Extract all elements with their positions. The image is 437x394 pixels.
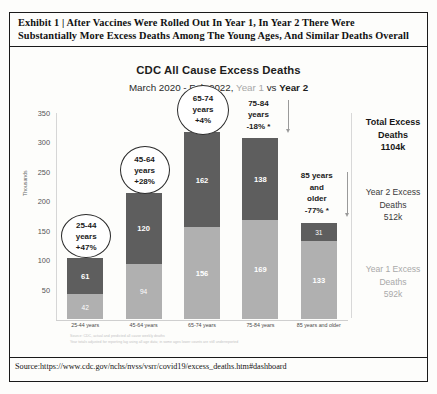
bar-segment-year2: 31 [301,223,337,241]
source-citation: Source:https://www.cdc.gov/nchs/nvss/vsr… [15,362,287,371]
legend-year2-line1: Year 2 Excess [352,186,434,199]
y-tick-label: 150 [28,226,50,235]
exhibit-page: Exhibit 1 | After Vaccines Were Rolled O… [0,0,437,394]
callout-age: 25-44 [76,220,96,231]
bar-value-year2: 162 [184,175,220,184]
y-tick-label: 200 [28,197,50,206]
callout-years: years [193,104,214,115]
x-tick-label: 65-74 years [172,322,232,328]
bar-value-year2: 31 [301,228,337,235]
footnote-1: Source: CDC, actual and predicted all ca… [70,334,360,340]
bar-segment-year1: 94 [126,264,162,319]
callout-pct: +28% [134,176,155,187]
legend-year1-excess: Year 1 Excess Deaths 592k [352,263,434,301]
legend-year2-line2: Deaths [352,199,434,212]
bar-25-44-years: 6142 [67,258,103,319]
callout-age: 75-84 [232,98,284,110]
legend-year1-value: 592k [352,288,434,301]
callout-85-years-and-older: 85 yearsandolder-77% * [291,170,343,216]
bar-value-year1: 94 [126,288,162,295]
callout-75-84-years: 75-84years-18% * [232,98,284,133]
headline-line-2: Substantially More Excess Deaths Among T… [18,30,421,43]
bar-value-year2: 61 [67,272,103,281]
source-divider [10,357,427,358]
bar-65-74-years: 162156 [184,132,220,319]
subtitle-vs: vs [264,82,279,93]
bar-value-year1: 133 [301,275,337,284]
subtitle-year2: Year 2 [279,82,308,93]
callout-pointer-line [347,172,348,214]
callout-years2: older [291,193,343,205]
callout-age: 85 years [291,170,343,182]
chart-title: CDC All Cause Excess Deaths [0,64,437,76]
callout-pct: +4% [195,115,211,126]
callout-pct: +47% [76,242,97,253]
callout-pct: -18% * [232,121,284,133]
y-tick-label: 100 [28,256,50,265]
legend-year2-value: 512k [352,211,434,224]
legend-total-line1: Total Excess [352,116,434,129]
y-tick-label: 50 [28,285,50,294]
callout-years: and [291,182,343,194]
subtitle-year1: Year 1 [236,82,264,93]
x-tick-label: 75-84 years [230,322,290,328]
bar-segment-year2: 61 [67,258,103,294]
legend-year1-line1: Year 1 Excess [352,263,434,276]
callout-years: years [76,231,97,242]
x-tick-label: 25-44 years [55,322,115,328]
bar-75-84-years: 138169 [242,138,278,319]
legend-total-excess: Total Excess Deaths 1104k [352,116,434,154]
callout-age: 45-64 [134,154,154,165]
bar-85-years-and-older: 31133 [301,223,337,320]
bar-45-64-years: 12094 [126,193,162,319]
bar-value-year1: 42 [67,303,103,310]
legend-total-line2: Deaths [352,129,434,142]
bar-value-year1: 169 [242,265,278,274]
callout-age: 65-74 [193,93,213,104]
footnote-2: Year totals adjusted for reporting lag u… [70,340,360,346]
bar-segment-year2: 162 [184,132,220,227]
bar-segment-year1: 133 [301,241,337,319]
callout-45-64-years: 45-64years+28% [120,146,170,194]
x-tick-label: 85 years and older [289,322,349,328]
callout-65-74-years: 65-74years+4% [177,85,229,135]
callout-years: years [134,165,155,176]
bar-value-year1: 156 [184,269,220,278]
x-tick-label: 45-64 years [114,322,174,328]
callout-pct: -77% * [291,205,343,217]
bar-segment-year1: 169 [242,220,278,319]
exhibit-headline: Exhibit 1 | After Vaccines Were Rolled O… [10,13,427,47]
headline-line-1: Exhibit 1 | After Vaccines Were Rolled O… [18,17,421,30]
callout-pointer-line [288,100,289,131]
y-tick-label: 300 [28,138,50,147]
bar-segment-year1: 156 [184,227,220,319]
y-tick-label: 250 [28,167,50,176]
y-tick-label: 350 [28,109,50,118]
bar-segment-year1: 42 [67,294,103,319]
legend-year1-line2: Deaths [352,276,434,289]
callout-years: years [232,109,284,121]
bar-segment-year2: 120 [126,193,162,264]
bar-value-year2: 138 [242,174,278,183]
x-axis-line [56,320,348,321]
bar-value-year2: 120 [126,224,162,233]
legend-total-value: 1104k [352,141,434,154]
legend-year2-excess: Year 2 Excess Deaths 512k [352,186,434,224]
bar-segment-year2: 138 [242,138,278,219]
